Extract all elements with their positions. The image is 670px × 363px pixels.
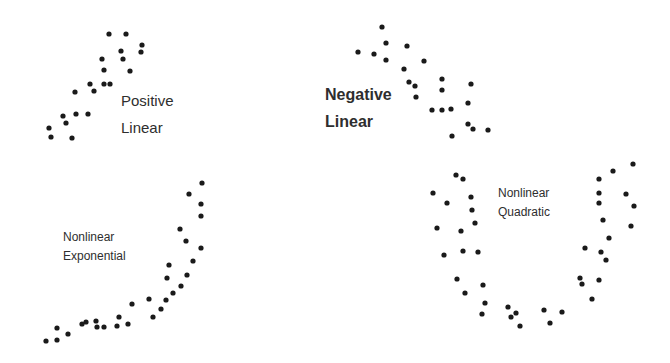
data-point [183, 238, 188, 243]
data-point [118, 48, 123, 53]
data-point [101, 324, 106, 329]
data-point [91, 88, 96, 93]
data-point [439, 76, 444, 81]
data-point [439, 87, 444, 92]
data-point [54, 337, 59, 342]
data-point [413, 94, 418, 99]
data-point [517, 323, 522, 328]
scatter-plots-canvas: PositiveLinear NegativeLinear NonlinearE… [0, 0, 670, 363]
data-point [94, 324, 99, 329]
data-point [454, 276, 459, 281]
data-point [379, 24, 384, 29]
plot-label: Linear [121, 119, 163, 136]
data-point [513, 310, 518, 315]
data-point [547, 320, 552, 325]
data-point [610, 168, 615, 173]
data-point [582, 245, 587, 250]
plot-label: Exponential [63, 249, 126, 263]
data-point [453, 172, 458, 177]
plot-label: Nonlinear [498, 186, 549, 200]
data-point [468, 81, 473, 86]
data-point [470, 126, 475, 131]
data-point [603, 257, 608, 262]
data-point [199, 180, 204, 185]
data-point [123, 31, 128, 36]
data-point [99, 56, 104, 61]
data-point [596, 200, 601, 205]
data-point [465, 100, 470, 105]
data-point [472, 220, 477, 225]
data-point [198, 245, 203, 250]
data-point [69, 135, 74, 140]
plot-positive-linear: PositiveLinear [46, 31, 173, 140]
data-point [598, 249, 603, 254]
data-point [63, 120, 68, 125]
data-point [107, 81, 112, 86]
data-point [628, 223, 633, 228]
data-point [190, 258, 195, 263]
data-point [170, 290, 175, 295]
data-point [72, 89, 77, 94]
plot-label: Quadratic [498, 205, 550, 219]
data-point [596, 277, 601, 282]
data-point [434, 225, 439, 230]
plot-label: Positive [121, 92, 174, 109]
data-point [579, 281, 584, 286]
data-point [150, 314, 155, 319]
data-point [43, 338, 48, 343]
data-point [475, 249, 480, 254]
data-point [441, 252, 446, 257]
data-point [444, 200, 449, 205]
plot-nonlinear-exponential: NonlinearExponential [43, 180, 204, 343]
data-point [177, 226, 182, 231]
data-point [73, 111, 78, 116]
data-point [458, 228, 463, 233]
data-point [480, 282, 485, 287]
data-point [421, 58, 426, 63]
data-point [138, 49, 143, 54]
plot-label: Linear [325, 113, 373, 130]
data-point [60, 113, 65, 118]
data-point [184, 272, 189, 277]
data-point [46, 125, 51, 130]
data-point [127, 68, 132, 73]
data-point [85, 111, 90, 116]
data-point [429, 107, 434, 112]
data-point [106, 31, 111, 36]
data-point [355, 49, 360, 54]
data-point [468, 194, 473, 199]
data-point [460, 176, 465, 181]
plot-label: Negative [325, 86, 392, 103]
data-point [198, 201, 203, 206]
data-point [412, 83, 417, 88]
data-point [125, 321, 130, 326]
data-point [114, 323, 119, 328]
data-point [93, 318, 98, 323]
data-point [406, 79, 411, 84]
data-point [178, 283, 183, 288]
data-point [164, 275, 169, 280]
data-point [83, 319, 88, 324]
data-point [577, 275, 582, 280]
data-point [166, 262, 171, 267]
data-point [48, 134, 53, 139]
data-point [120, 56, 125, 61]
data-point [448, 106, 453, 111]
data-point [596, 176, 601, 181]
data-point [87, 81, 92, 86]
data-point [508, 314, 513, 319]
plot-negative-linear: NegativeLinear [325, 24, 491, 138]
data-point [559, 309, 564, 314]
data-point [404, 43, 409, 48]
data-point [606, 235, 611, 240]
data-point [430, 190, 435, 195]
data-point [623, 191, 628, 196]
data-point [505, 304, 510, 309]
data-point [449, 133, 454, 138]
data-point [541, 307, 546, 312]
data-point [596, 190, 601, 195]
data-point [589, 296, 594, 301]
data-point [163, 297, 168, 302]
data-point [439, 107, 444, 112]
data-point [485, 127, 490, 132]
